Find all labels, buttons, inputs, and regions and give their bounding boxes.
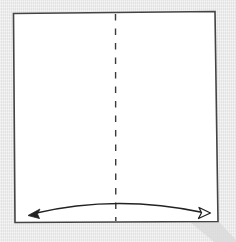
origami-diagram <box>0 0 236 242</box>
paper-shadow <box>190 222 236 242</box>
origami-diagram-canvas <box>0 0 236 242</box>
